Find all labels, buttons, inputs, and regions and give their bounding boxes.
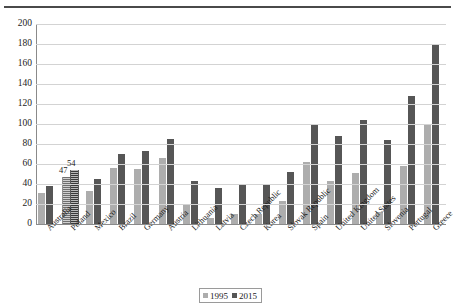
y-axis-tick-label: 40 [2,179,32,189]
y-axis-tick-label: 140 [2,79,32,89]
y-axis-tick-label: 100 [2,119,32,129]
gridline-140 [36,84,446,85]
gridline-120 [36,104,446,105]
bar-2015 [432,44,439,224]
legend-swatch-icon [203,293,208,298]
y-axis-tick-label: 80 [2,139,32,149]
y-axis-tick-label: 200 [2,19,32,29]
gridline-200 [36,24,446,25]
data-label-2015: 54 [67,159,76,168]
gridline-160 [36,64,446,65]
legend-item: 1995 [203,291,228,301]
gridline-180 [36,44,446,45]
y-axis-tick-label: 160 [2,59,32,69]
gridline-80 [36,144,446,145]
y-axis-tick-label: 60 [2,159,32,169]
gridline-20 [36,204,446,205]
chart-figure: AustraliaPolandMexicoBrazilGermanyAustri… [0,0,455,308]
y-axis-tick-label: 180 [2,39,32,49]
gridline-100 [36,124,446,125]
y-axis-tick-label: 0 [2,219,32,229]
legend-swatch-icon [232,293,237,298]
chart-legend: 19952015 [199,288,262,303]
top-divider-rule [4,6,451,8]
legend-label: 1995 [210,291,228,301]
gridline-40 [36,184,446,185]
bar-2015 [142,151,149,224]
legend-label: 2015 [239,291,257,301]
gridline-60 [36,164,446,165]
y-axis-tick-label: 20 [2,199,32,209]
legend-item: 2015 [232,291,257,301]
gridline-0 [36,224,446,225]
bar-2015 [335,136,342,224]
bar-1995 [38,193,45,224]
x-axis-labels: AustraliaPolandMexicoBrazilGermanyAustri… [36,226,448,288]
y-axis-tick-label: 120 [2,99,32,109]
